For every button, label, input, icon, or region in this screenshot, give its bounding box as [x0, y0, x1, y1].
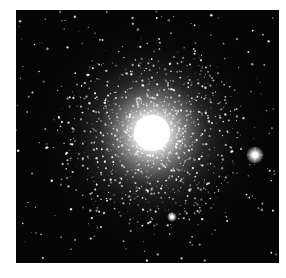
- cluster-graphic: [16, 10, 279, 263]
- star-cluster-image: Black-and-white telescope image of a den…: [16, 10, 279, 263]
- bright-star: [246, 146, 264, 164]
- secondary-star: [167, 212, 177, 222]
